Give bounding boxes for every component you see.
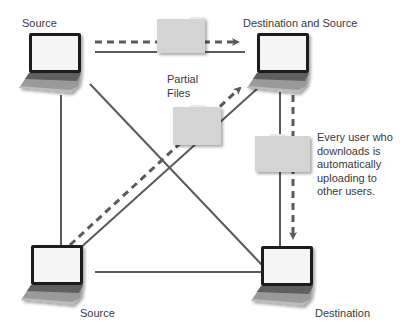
folder-icon — [173, 105, 221, 145]
partial-files-line-1: Partial — [167, 73, 277, 87]
line-bottom-left-to-top-right — [78, 88, 258, 250]
note-line: automatically — [317, 158, 404, 172]
laptop-icon-bottom-left — [21, 245, 83, 305]
node-label-bottom-right: Destination — [315, 307, 370, 320]
folder-icon — [157, 17, 205, 53]
note-line: Every user who — [317, 131, 404, 145]
node-label-top-left: Source — [22, 17, 57, 30]
laptop-icon-bottom-right — [251, 246, 313, 306]
note-line: uploading to — [317, 172, 404, 186]
node-label-top-right: Destination and Source — [243, 17, 357, 30]
explanation-note: Every user who downloads is automaticall… — [317, 131, 404, 199]
laptop-icon-top-left — [19, 33, 81, 93]
note-line: other users. — [317, 185, 404, 199]
partial-files-label: Partial Files — [167, 73, 277, 100]
node-label-bottom-left: Source — [80, 307, 115, 320]
folder-icon — [255, 134, 310, 172]
note-line: downloads is — [317, 145, 404, 159]
partial-files-line-2: Files — [167, 87, 277, 101]
